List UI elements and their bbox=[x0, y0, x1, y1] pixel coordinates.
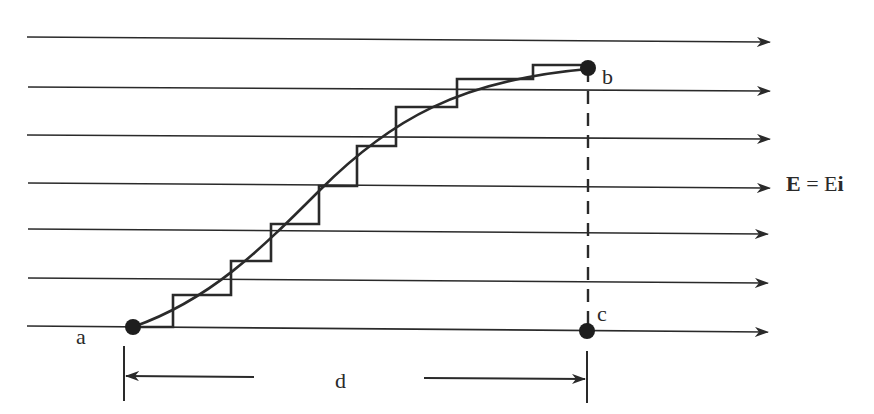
field-line-3-arrow bbox=[27, 135, 770, 139]
point-c-dot bbox=[579, 323, 595, 339]
staircase-path bbox=[133, 65, 588, 327]
dimension-d-label: d bbox=[335, 368, 346, 393]
dimension-d bbox=[124, 346, 587, 403]
point-a-label: a bbox=[76, 324, 86, 349]
field-lines bbox=[27, 37, 770, 332]
point-b-dot bbox=[580, 60, 596, 76]
field-line-4-arrow bbox=[28, 183, 770, 188]
dimension-arrow-right bbox=[424, 378, 585, 379]
point-b-label: b bbox=[602, 64, 613, 89]
field-line-2-arrow bbox=[28, 87, 770, 91]
field-equals: = bbox=[801, 171, 824, 196]
dimension-arrow-left bbox=[126, 376, 254, 377]
electric-field-path-diagram: a b c E = Ei d bbox=[0, 0, 874, 414]
field-magnitude: E bbox=[824, 171, 837, 196]
field-label: E = Ei bbox=[786, 171, 844, 196]
field-line-5-arrow bbox=[28, 229, 768, 234]
curve-path-a-to-b bbox=[133, 69, 588, 327]
point-c-label: c bbox=[597, 301, 607, 326]
point-a-dot bbox=[125, 319, 141, 335]
field-line-6-arrow bbox=[28, 278, 768, 283]
field-line-1-arrow bbox=[27, 37, 770, 42]
field-vector-symbol: E bbox=[786, 171, 801, 196]
unit-vector-i: i bbox=[838, 171, 844, 196]
